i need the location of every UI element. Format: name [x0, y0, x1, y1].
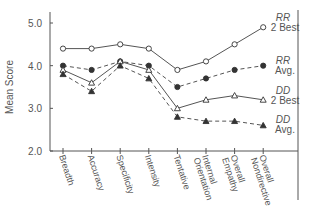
series-label: RRAvg.: [275, 55, 295, 76]
data-point-marker: [146, 75, 152, 80]
data-point-marker: [260, 122, 266, 127]
data-point-marker: [232, 42, 237, 47]
x-tick-label-line: Accuracy: [86, 154, 107, 193]
y-axis-title: Mean Score: [4, 60, 15, 114]
data-point-marker: [89, 46, 94, 51]
series-labels: RR2 BestRRAvg.DD2 BestDDAvg.: [271, 12, 300, 135]
y-tick-label: 4.0: [28, 61, 42, 72]
x-tick-label: Intensity: [143, 154, 163, 189]
series-label-line: Avg.: [275, 124, 295, 135]
series-rr-2-best: [60, 25, 265, 73]
data-point-marker: [60, 46, 65, 51]
data-point-marker: [203, 59, 208, 64]
data-point-marker: [261, 63, 266, 68]
series-label-line: Avg.: [275, 65, 295, 76]
series-label: DDAvg.: [275, 114, 295, 135]
data-point-marker: [203, 76, 208, 81]
x-tick-label-line: Intensity: [143, 154, 163, 189]
data-point-marker: [261, 25, 266, 30]
x-tick-label-line: Specificity: [114, 154, 136, 196]
x-tick-label: Specificity: [114, 154, 136, 196]
series-group: [60, 25, 266, 128]
x-tick-label-line: Tentative: [171, 154, 192, 191]
data-point-marker: [146, 46, 151, 51]
x-tick-label-line: Breadth: [57, 154, 76, 187]
x-tick-label: Accuracy: [86, 154, 107, 193]
data-point-marker: [232, 67, 237, 72]
x-tick-label: OverallEmpathy: [220, 154, 249, 194]
line-chart: 2.03.04.05.0Mean ScoreBreadthAccuracySpe…: [0, 0, 314, 214]
x-tick-label: Tentative: [171, 154, 192, 191]
axes: 2.03.04.05.0Mean ScoreBreadthAccuracySpe…: [4, 10, 298, 207]
y-tick-label: 2.0: [28, 146, 42, 157]
series-label-line: 2 Best: [271, 95, 300, 106]
series-label-line: 2 Best: [271, 22, 300, 33]
x-tick-label: InternalOrientation: [192, 154, 224, 202]
series-label: DD2 Best: [271, 85, 300, 106]
data-point-marker: [175, 84, 180, 89]
series-label: RR2 Best: [271, 12, 300, 33]
y-tick-label: 5.0: [28, 18, 42, 29]
y-tick-label: 3.0: [28, 103, 42, 114]
x-tick-label: Breadth: [57, 154, 76, 187]
x-tick-label: OverallNondirective: [249, 154, 283, 207]
data-point-marker: [175, 67, 180, 72]
series-dd-2-best: [60, 58, 266, 110]
data-point-marker: [118, 42, 123, 47]
data-point-marker: [89, 67, 94, 72]
data-point-marker: [232, 93, 238, 98]
